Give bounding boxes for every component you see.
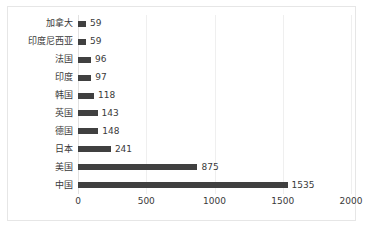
bar-row: 日本241 [78,140,351,158]
x-tick-label: 500 [138,197,155,206]
gridline-2000 [351,15,352,194]
bar-value-label: 1535 [292,181,315,190]
category-label: 中国 [55,181,73,190]
bar-value-label: 148 [102,127,119,136]
chart-frame: 加拿大59印度尼西亚59法国96印度97韩国118英国143德国148日本241… [7,6,356,221]
bar[interactable] [78,75,91,81]
bar[interactable] [78,128,98,134]
bar-value-label: 59 [90,19,101,28]
category-label: 英国 [55,109,73,118]
bar[interactable] [78,146,111,152]
bar-row: 美国875 [78,158,351,176]
bar[interactable] [78,93,94,99]
bar-row: 韩国118 [78,87,351,105]
category-label: 加拿大 [46,19,73,28]
x-tick-label: 2000 [340,197,363,206]
x-tick-label: 1000 [203,197,226,206]
category-label: 印度尼西亚 [28,37,73,46]
bar-row: 德国148 [78,122,351,140]
plot-area: 加拿大59印度尼西亚59法国96印度97韩国118英国143德国148日本241… [78,15,351,194]
category-label: 法国 [55,55,73,64]
bar[interactable] [78,21,86,27]
bar-row: 印度97 [78,69,351,87]
x-tick-label: 1500 [271,197,294,206]
bar-value-label: 143 [102,109,119,118]
bar-row: 中国1535 [78,176,351,194]
bar-row: 法国96 [78,51,351,69]
bar-value-label: 96 [95,55,106,64]
bar[interactable] [78,164,197,170]
bar-value-label: 875 [201,163,218,172]
bar-value-label: 118 [98,91,115,100]
bar[interactable] [78,39,86,45]
category-label: 德国 [55,127,73,136]
x-axis: 0500100015002000 [78,197,351,213]
category-label: 韩国 [55,91,73,100]
bar[interactable] [78,182,288,188]
bar-value-label: 59 [90,37,101,46]
bar-row: 加拿大59 [78,15,351,33]
x-tick-label: 0 [75,197,81,206]
bar-row: 英国143 [78,105,351,123]
bar-value-label: 241 [115,145,132,154]
category-label: 印度 [55,73,73,82]
bar[interactable] [78,57,91,63]
category-label: 美国 [55,163,73,172]
category-label: 日本 [55,145,73,154]
bar-value-label: 97 [95,73,106,82]
bar[interactable] [78,110,98,116]
bar-row: 印度尼西亚59 [78,33,351,51]
